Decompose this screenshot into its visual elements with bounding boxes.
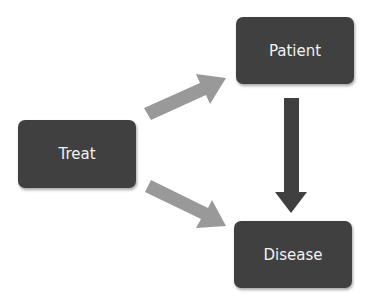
node-patient: Patient xyxy=(236,17,354,84)
node-label: Patient xyxy=(269,42,321,60)
node-label: Treat xyxy=(58,145,95,163)
node-treat: Treat xyxy=(18,120,136,188)
arrow-treat-to-patient xyxy=(144,74,226,120)
node-disease: Disease xyxy=(234,221,352,288)
arrow-patient-to-disease xyxy=(275,98,307,213)
node-label: Disease xyxy=(264,246,323,264)
arrow-treat-to-disease xyxy=(145,180,226,228)
